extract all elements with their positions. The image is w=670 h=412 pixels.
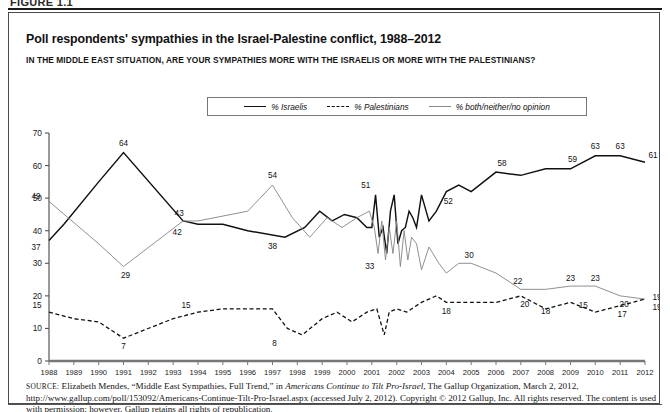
data-point-label: 20 [620, 300, 630, 309]
y-tick-label: 40 [33, 226, 43, 236]
data-point-label: 61 [648, 151, 658, 160]
y-tick-label: 70 [33, 128, 43, 138]
x-tick-label: 2003 [413, 368, 430, 377]
data-point-label: 63 [616, 142, 626, 151]
x-tick-label: 1995 [214, 368, 231, 377]
data-point-label: 64 [119, 139, 129, 148]
x-tick-label: 1992 [140, 368, 157, 377]
line-chart-svg: 0102030405060701988198919901991199219931… [23, 125, 659, 377]
data-point-label: 37 [31, 243, 41, 252]
legend-label-both-neither: % both/neither/no opinion [456, 102, 550, 112]
chart-title: Poll respondents' sympathies in the Isra… [26, 32, 441, 46]
x-tick-label: 1999 [314, 368, 331, 377]
x-tick-label: 1989 [65, 368, 82, 377]
x-tick-label: 1990 [90, 368, 107, 377]
data-point-label: 15 [181, 301, 191, 310]
data-point-label: 23 [591, 274, 601, 283]
legend-item-both-neither: % both/neither/no opinion [429, 102, 550, 112]
data-point-label: 19 [652, 293, 659, 302]
x-tick-label: 1998 [289, 368, 306, 377]
chart-subtitle: IN THE MIDDLE EAST SITUATION, ARE YOUR S… [26, 55, 536, 65]
y-tick-label: 60 [33, 161, 43, 171]
data-point-label: 49 [31, 192, 41, 201]
data-point-label: 51 [361, 181, 371, 190]
x-tick-label: 2009 [562, 368, 579, 377]
figure-label: FIGURE 1.1 [10, 0, 73, 8]
legend-line-solid-icon [244, 104, 266, 110]
data-point-label: 52 [444, 197, 454, 206]
data-point-label: 15 [579, 301, 589, 310]
source-note: SOURCE: Elizabeth Mendes, “Middle East S… [26, 381, 662, 412]
x-tick-label: 2005 [463, 368, 480, 377]
series-line-palestinians [49, 296, 645, 338]
data-point-label: 23 [566, 274, 576, 283]
bottom-divider [8, 404, 662, 405]
y-tick-label: 10 [33, 323, 43, 333]
y-tick-label: 0 [37, 356, 42, 366]
data-point-label: 7 [121, 342, 126, 351]
x-tick-label: 2000 [339, 368, 356, 377]
figure-container: Poll respondents' sympathies in the Isra… [8, 12, 660, 404]
data-point-label: 22 [513, 277, 523, 286]
x-tick-label: 2012 [637, 368, 654, 377]
chart-legend: % Israelis % Palestinians % both/neither… [207, 97, 587, 116]
data-point-label: 18 [442, 307, 452, 316]
legend-line-thin-icon [429, 104, 451, 110]
series-line-both-neither-no-opinion [49, 185, 645, 299]
data-point-label: 20 [520, 300, 530, 309]
legend-item-israelis: % Israelis [244, 102, 307, 112]
x-tick-label: 2007 [512, 368, 529, 377]
legend-label-israelis: % Israelis [271, 102, 307, 112]
source-line1-a: Elizabeth Mendes, “Middle East Sympathie… [59, 381, 285, 391]
data-point-label: 38 [268, 242, 278, 251]
data-point-label: 43 [175, 209, 185, 218]
data-point-label: 54 [268, 171, 278, 180]
source-line1-italic: Americans Continue to Tilt Pro-Israel [285, 381, 423, 391]
x-tick-label: 1994 [190, 368, 207, 377]
data-point-label: 59 [568, 155, 578, 164]
chart-plot-area: 0102030405060701988198919901991199219931… [23, 125, 659, 377]
data-point-label: 63 [591, 142, 601, 151]
x-tick-label: 1991 [115, 368, 132, 377]
data-point-label: 8 [272, 339, 277, 348]
x-tick-label: 2001 [363, 368, 380, 377]
data-point-label: 42 [173, 228, 183, 237]
y-tick-label: 30 [33, 258, 43, 268]
legend-label-palestinians: % Palestinians [354, 102, 408, 112]
data-point-label: 17 [618, 310, 628, 319]
top-divider [8, 8, 662, 10]
x-tick-label: 1988 [41, 368, 58, 377]
x-tick-label: 2010 [587, 368, 604, 377]
data-point-label: 29 [121, 271, 131, 280]
x-tick-label: 2008 [537, 368, 554, 377]
data-point-label: 19 [652, 303, 659, 312]
x-tick-label: 1993 [165, 368, 182, 377]
source-line1-b: , The Gallup Organization, March 2, 2012… [423, 381, 578, 391]
x-tick-label: 1996 [239, 368, 256, 377]
data-point-label: 18 [541, 307, 551, 316]
x-tick-label: 2002 [388, 368, 405, 377]
source-line2: http://www.gallup.com/poll/153092/Americ… [26, 393, 584, 403]
y-tick-label: 20 [33, 291, 43, 301]
data-point-label: 30 [465, 251, 475, 260]
data-point-label: 58 [497, 159, 507, 168]
legend-line-dashed-icon [327, 104, 349, 110]
legend-item-palestinians: % Palestinians [327, 102, 408, 112]
x-tick-label: 2006 [488, 368, 505, 377]
data-point-label: 33 [365, 262, 375, 271]
source-prefix: SOURCE: [26, 382, 59, 391]
series-line-israelis [49, 153, 645, 254]
x-tick-label: 2004 [438, 368, 455, 377]
x-tick-label: 1997 [264, 368, 281, 377]
data-point-label: 15 [32, 301, 42, 310]
x-tick-label: 2011 [612, 368, 628, 377]
